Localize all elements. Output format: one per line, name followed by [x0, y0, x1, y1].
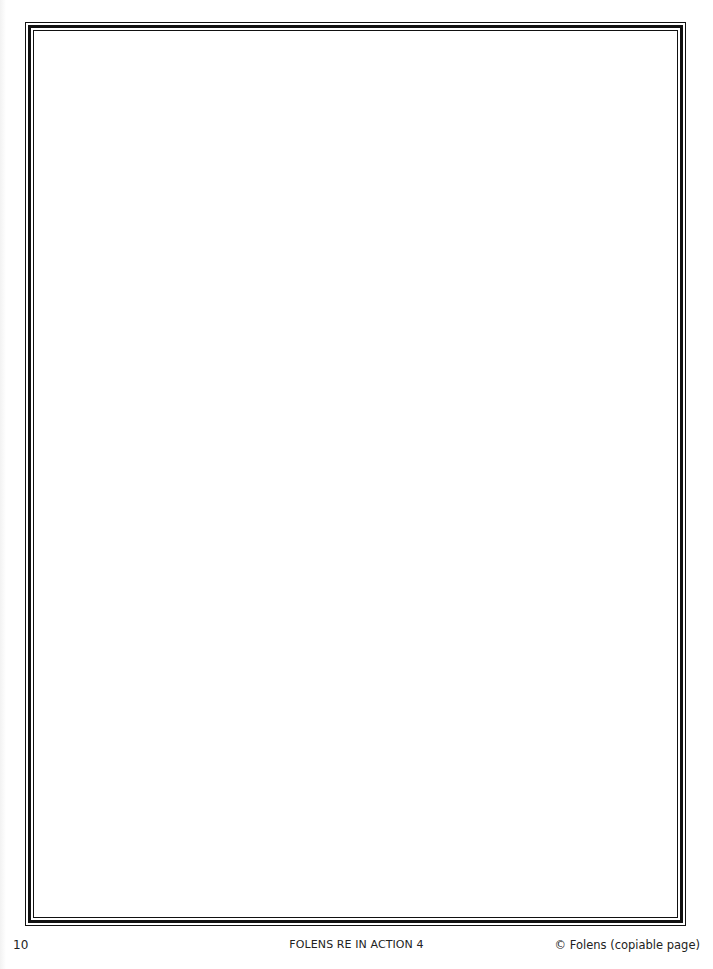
blank-worksheet-area [34, 31, 677, 917]
page-footer: 10 FOLENS RE IN ACTION 4 © Folens (copia… [0, 935, 713, 955]
page-border-thick-line [28, 25, 683, 923]
page-edge-shadow [0, 0, 6, 969]
copyright-notice: © Folens (copiable page) [555, 935, 700, 955]
page-border-inner-line [33, 30, 678, 918]
page-border-frame [25, 22, 686, 926]
